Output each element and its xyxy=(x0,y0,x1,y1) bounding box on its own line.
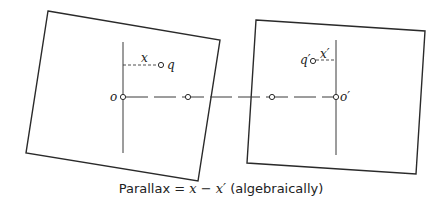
stereo-parallax-diagram: o q x o′ q′ x′ Parallax = x − x′ (algebr… xyxy=(0,0,442,202)
point-q xyxy=(158,62,163,67)
point-conjugate-right xyxy=(269,94,274,99)
caption-prefix: Parallax = xyxy=(119,181,190,196)
caption: Parallax = x − x′ (algebraically) xyxy=(0,181,442,196)
label-x: x xyxy=(141,52,148,64)
caption-formula: x − x′ xyxy=(189,181,226,196)
point-o xyxy=(120,94,125,99)
label-q-prime: q′ xyxy=(300,54,310,66)
point-q-prime xyxy=(310,58,315,63)
caption-suffix: (algebraically) xyxy=(226,181,323,196)
diagram-canvas xyxy=(0,0,442,202)
label-o-prime: o′ xyxy=(340,91,350,103)
label-o: o xyxy=(110,91,117,103)
label-q: q xyxy=(167,59,175,71)
point-conjugate-left xyxy=(185,94,190,99)
point-o-prime xyxy=(333,94,338,99)
label-x-prime: x′ xyxy=(320,48,330,60)
